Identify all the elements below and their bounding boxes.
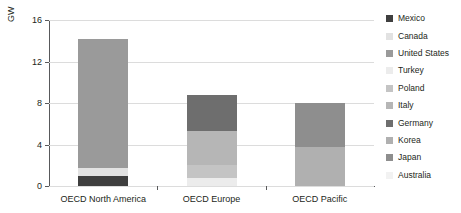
legend-item[interactable]: Canada <box>386 27 458 44</box>
x-axis-tick <box>266 186 267 190</box>
legend-item-label: Germany <box>398 119 433 128</box>
legend-item-label: Canada <box>398 32 428 41</box>
legend-item[interactable]: Italy <box>386 97 458 114</box>
legend-item-label: Italy <box>398 101 414 110</box>
chart-container: GW 0481216 OECD North AmericaOECD Europe… <box>0 0 461 213</box>
legend-item[interactable]: Japan <box>386 149 458 166</box>
x-axis-tick-label: OECD Europe <box>157 194 265 204</box>
y-axis-tick-label: 12 <box>20 58 42 67</box>
legend: MexicoCanadaUnited StatesTurkeyPolandIta… <box>386 10 458 184</box>
legend-swatch-icon <box>386 137 393 144</box>
x-axis-tick <box>157 186 158 190</box>
y-axis-tick-label: 8 <box>20 99 42 108</box>
legend-swatch-icon <box>386 15 393 22</box>
y-axis-tick-label: 0 <box>20 182 42 191</box>
legend-item[interactable]: Mexico <box>386 10 458 27</box>
legend-item[interactable]: United States <box>386 45 458 62</box>
legend-swatch-icon <box>386 33 393 40</box>
y-axis-tick-label: 4 <box>20 141 42 150</box>
legend-swatch-icon <box>386 120 393 127</box>
legend-item-label: Korea <box>398 136 421 145</box>
x-axis-tick-label: OECD North America <box>49 194 157 204</box>
legend-item-label: Japan <box>398 153 421 162</box>
legend-item-label: Turkey <box>398 66 424 75</box>
legend-item-label: Poland <box>398 84 424 93</box>
legend-item[interactable]: Germany <box>386 114 458 131</box>
legend-item[interactable]: Australia <box>386 167 458 184</box>
legend-item-label: Mexico <box>398 14 425 23</box>
legend-swatch-icon <box>386 154 393 161</box>
legend-swatch-icon <box>386 50 393 57</box>
legend-swatch-icon <box>386 102 393 109</box>
legend-item[interactable]: Korea <box>386 132 458 149</box>
legend-item[interactable]: Turkey <box>386 62 458 79</box>
legend-swatch-icon <box>386 172 393 179</box>
legend-item[interactable]: Poland <box>386 80 458 97</box>
legend-item-label: United States <box>398 49 449 58</box>
x-axis-tick-label: OECD Pacific <box>266 194 374 204</box>
legend-swatch-icon <box>386 85 393 92</box>
y-axis-tick-label: 16 <box>20 16 42 25</box>
legend-item-label: Australia <box>398 171 431 180</box>
legend-swatch-icon <box>386 67 393 74</box>
